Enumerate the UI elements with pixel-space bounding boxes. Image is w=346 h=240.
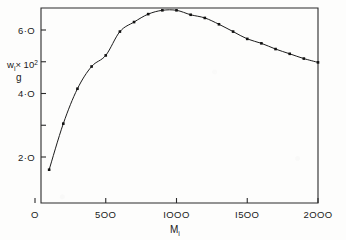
y-axis-title-numerator: wi× 102 <box>6 59 38 72</box>
y-axis-title-group: wi× 102 g <box>6 59 38 84</box>
data-point <box>147 13 150 16</box>
data-point <box>161 9 164 12</box>
x-tick-label-1500: I5OO <box>235 209 259 220</box>
plot-frame <box>41 8 318 203</box>
data-point <box>303 57 306 60</box>
x-tick-label-500: 5OO <box>95 209 116 220</box>
y-axis-ticks <box>41 30 46 157</box>
x-axis-tick-labels: O5OOIOOOI5OO2OOO <box>31 209 332 220</box>
x-tick-label-2000: 2OOO <box>303 209 332 220</box>
axis-frame <box>41 8 318 203</box>
x-tick-label-0: O <box>31 209 39 220</box>
x-axis-ticks <box>35 198 318 203</box>
data-point <box>260 42 263 45</box>
data-point <box>288 53 291 56</box>
data-point <box>246 38 249 41</box>
x-axis-title-group: Mi <box>170 224 180 237</box>
data-point <box>48 168 51 171</box>
data-point <box>119 30 122 33</box>
y-tick-label-6: 6·O <box>18 25 35 36</box>
data-point <box>104 54 107 57</box>
data-point <box>204 17 207 20</box>
chart-figure: 2·O4·O6·O O5OOIOOOI5OO2OOO wi× 102 g Mi <box>0 0 346 240</box>
data-curve <box>49 10 318 170</box>
data-point <box>218 23 221 26</box>
data-point-markers <box>48 9 319 171</box>
y-tick-label-4: 4·O <box>18 88 35 99</box>
data-point <box>189 13 192 16</box>
data-point <box>232 30 235 33</box>
data-point <box>90 65 93 68</box>
data-point <box>175 9 178 12</box>
y-axis-title-denominator: g <box>16 72 22 83</box>
line-chart-svg: 2·O4·O6·O O5OOIOOOI5OO2OOO wi× 102 g Mi <box>0 0 346 240</box>
data-point <box>62 122 65 125</box>
data-point <box>133 21 136 24</box>
data-point <box>317 61 320 64</box>
data-point <box>274 48 277 51</box>
data-point <box>76 87 79 90</box>
x-axis-title: Mi <box>170 224 180 237</box>
y-axis-tick-labels: 2·O4·O6·O <box>18 25 35 163</box>
y-tick-label-2: 2·O <box>18 152 35 163</box>
x-tick-label-1000: IOOO <box>163 209 189 220</box>
